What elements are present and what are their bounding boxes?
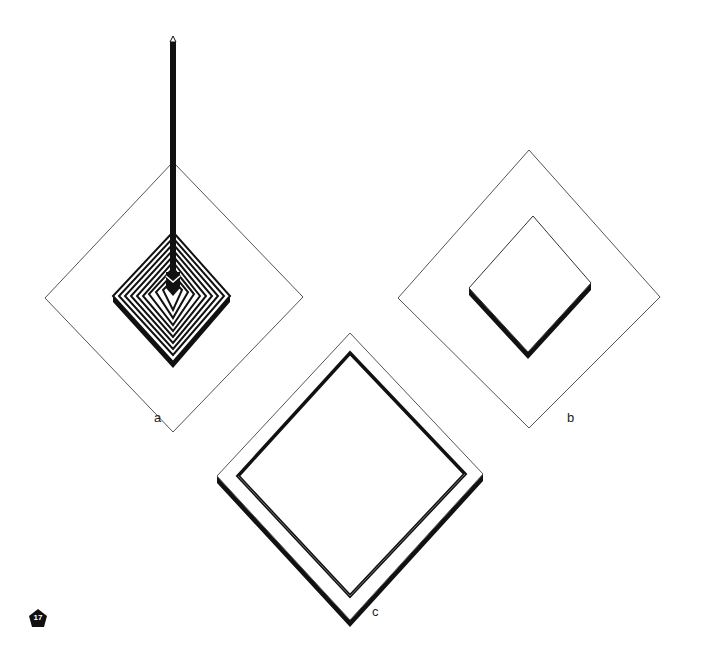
figure-number-badge: 17	[28, 608, 48, 628]
panel-c-label: c	[372, 604, 379, 619]
panel-a-diagram	[45, 36, 303, 432]
panel-b-diagram	[398, 150, 660, 428]
panel-a-label: a	[154, 410, 161, 425]
panel-c-diagram	[217, 333, 483, 627]
figure-number: 17	[28, 613, 48, 622]
figure-canvas	[0, 0, 702, 651]
panel-b-label: b	[567, 410, 574, 425]
